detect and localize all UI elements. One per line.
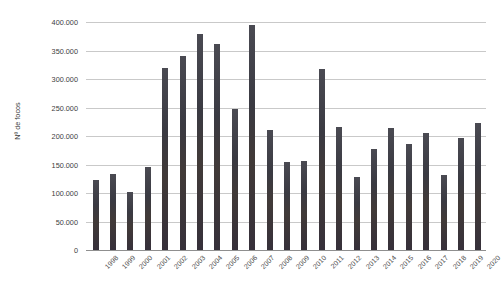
x-axis-tick-label: 2010 — [312, 254, 328, 270]
bar — [336, 127, 342, 250]
x-axis-tick-label: 2011 — [329, 254, 345, 270]
bar — [214, 44, 220, 250]
x-axis-tick-label: 2018 — [451, 254, 467, 270]
x-axis-tick-label: 2015 — [399, 254, 415, 270]
bar — [423, 133, 429, 250]
x-axis-tick-label: 2001 — [155, 254, 171, 270]
axis-baseline — [86, 250, 486, 251]
bar — [319, 69, 325, 250]
x-axis-tick-labels: 1998199920002001200220032004200520062007… — [86, 252, 486, 289]
y-axis-tick-label: 250.000 — [52, 103, 78, 112]
x-axis-tick-label: 2012 — [347, 254, 363, 270]
x-axis-tick-label: 2016 — [416, 254, 432, 270]
x-axis-tick-label: 2002 — [173, 254, 189, 270]
x-axis-tick-label: 1999 — [121, 254, 137, 270]
bar — [127, 192, 133, 250]
gridline — [86, 108, 486, 109]
x-axis-tick-label: 2019 — [468, 254, 484, 270]
bar — [197, 34, 203, 250]
y-axis-tick-label: 200.000 — [52, 132, 78, 141]
x-axis-tick-label: 2003 — [190, 254, 206, 270]
y-axis-tick-label: 150.000 — [52, 160, 78, 169]
y-axis-tick-label: 0 — [74, 246, 78, 255]
y-axis-tick-labels: 050.000100.000150.000200.000250.000300.0… — [0, 22, 86, 250]
y-axis-tick-label: 400.000 — [52, 18, 78, 27]
y-axis-tick-label: 50.000 — [56, 217, 78, 226]
gridline — [86, 51, 486, 52]
x-axis-tick-label: 1998 — [103, 254, 119, 270]
bar — [301, 161, 307, 250]
x-axis-tick-label: 2014 — [381, 254, 397, 270]
bar — [110, 174, 116, 250]
y-axis-tick-label: 350.000 — [52, 46, 78, 55]
bar — [93, 180, 99, 250]
x-axis-tick-label: 2017 — [434, 254, 450, 270]
y-axis-tick-label: 100.000 — [52, 189, 78, 198]
x-axis-tick-label: 2000 — [138, 254, 154, 270]
bar — [145, 167, 151, 250]
plot-area — [86, 22, 486, 250]
x-axis-tick-label: 2008 — [277, 254, 293, 270]
bar — [388, 128, 394, 250]
gridline — [86, 79, 486, 80]
bar — [475, 123, 481, 250]
bar — [458, 138, 464, 250]
x-axis-tick-label: 2007 — [260, 254, 276, 270]
x-axis-tick-label: 2013 — [364, 254, 380, 270]
x-axis-tick-label: 2005 — [225, 254, 241, 270]
bar — [162, 68, 168, 250]
bar — [267, 130, 273, 250]
x-axis-tick-label: 2006 — [242, 254, 258, 270]
x-axis-tick-label: 2004 — [207, 254, 223, 270]
x-axis-tick-label: 2020 — [486, 254, 502, 270]
bar — [371, 149, 377, 250]
gridline — [86, 22, 486, 23]
bar — [354, 177, 360, 250]
bar — [249, 25, 255, 250]
bar — [232, 109, 238, 250]
bar — [180, 56, 186, 250]
bar — [441, 175, 447, 250]
bar — [284, 162, 290, 250]
bar — [406, 144, 412, 250]
x-axis-tick-label: 2009 — [294, 254, 310, 270]
y-axis-tick-label: 300.000 — [52, 75, 78, 84]
